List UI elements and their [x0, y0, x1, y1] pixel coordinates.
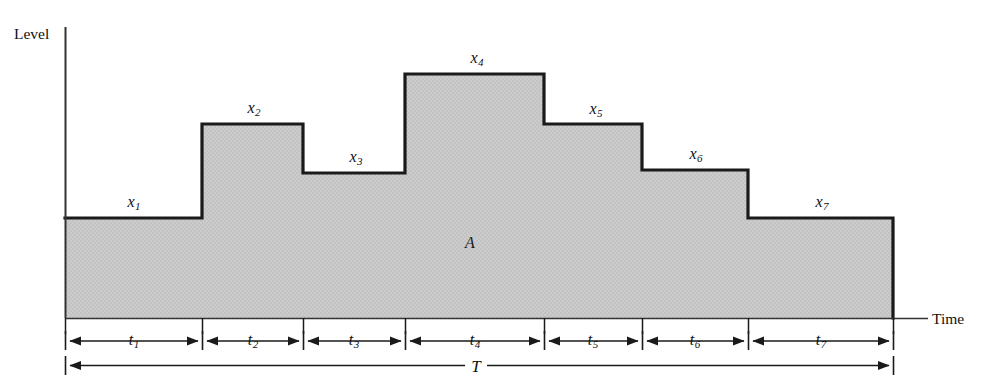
interval-label-t7-sub: 7 — [820, 338, 826, 350]
x-axis-label: Time — [932, 311, 964, 327]
step-label-x2-sub: 2 — [255, 106, 261, 118]
interval-label-t2-sub: 2 — [252, 338, 258, 350]
step-label-x3-sub: 3 — [357, 155, 363, 167]
area-label: A — [465, 234, 475, 252]
interval-label-t5-sub: 5 — [592, 338, 598, 350]
total-span-label: T — [471, 358, 480, 375]
step-label-x5: x5 — [589, 101, 602, 119]
staircase-area — [65, 74, 893, 318]
interval-label-t5: t5 — [588, 332, 598, 350]
step-label-x7: x7 — [815, 194, 828, 212]
interval-label-t4-sub: 4 — [474, 338, 480, 350]
interval-label-t2: t2 — [248, 332, 258, 350]
figure-canvas — [0, 0, 999, 390]
interval-label-t6: t6 — [690, 332, 700, 350]
step-label-x1: x1 — [127, 194, 140, 212]
step-label-x6-sub: 6 — [697, 152, 703, 164]
step-label-x2: x2 — [247, 100, 260, 118]
interval-label-t6-sub: 6 — [694, 338, 700, 350]
step-label-x7-sub: 7 — [823, 200, 829, 212]
step-label-x5-sub: 5 — [597, 107, 603, 119]
interval-label-t4: t4 — [470, 332, 480, 350]
interval-label-t3: t3 — [349, 332, 359, 350]
step-label-x3: x3 — [349, 149, 362, 167]
step-label-x6: x6 — [689, 146, 702, 164]
interval-label-t3-sub: 3 — [353, 338, 359, 350]
step-area-figure: Level Time A x1 x2 x3 x4 x5 x6 x7 t1 t2 … — [0, 0, 999, 390]
interval-label-t7: t7 — [816, 332, 826, 350]
interval-label-t1: t1 — [129, 332, 139, 350]
step-label-x4: x4 — [470, 50, 483, 68]
y-axis-label: Level — [14, 26, 49, 42]
step-label-x4-sub: 4 — [478, 56, 484, 68]
step-label-x1-sub: 1 — [135, 200, 141, 212]
interval-label-t1-sub: 1 — [133, 338, 139, 350]
